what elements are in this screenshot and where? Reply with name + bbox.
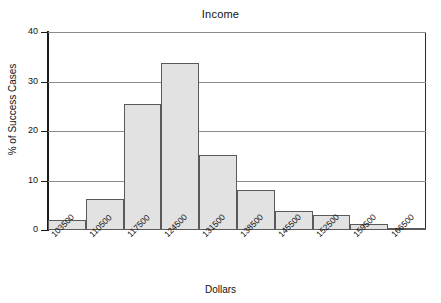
y-tick-20 (41, 131, 48, 132)
y-tick-label-40: 40 (14, 26, 38, 36)
y-tick-10 (41, 181, 48, 182)
bars-container (48, 32, 426, 230)
y-tick-label-0: 0 (14, 224, 38, 234)
x-axis-title: Dollars (0, 284, 441, 295)
y-tick-label-20: 20 (14, 125, 38, 135)
y-tick-label-30: 30 (14, 76, 38, 86)
y-tick-0 (41, 230, 48, 231)
y-tick-30 (41, 82, 48, 83)
histogram-chart: Income % of Success Cases 010203040 1035… (0, 0, 441, 303)
bar-117500 (124, 104, 162, 230)
y-tick-label-10: 10 (14, 175, 38, 185)
chart-title: Income (0, 8, 441, 20)
y-tick-40 (41, 32, 48, 33)
bar-124500 (161, 63, 199, 230)
y-axis-ticks: 010203040 (0, 0, 38, 303)
